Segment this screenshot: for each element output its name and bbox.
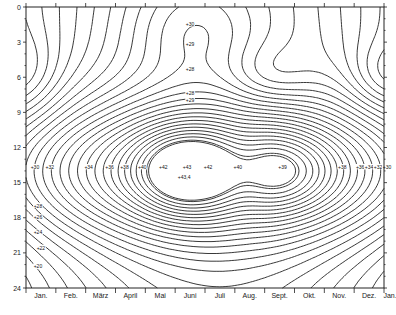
contour-label: +22: [37, 245, 46, 251]
contour-label: +29: [186, 41, 195, 47]
contour-label: +26: [34, 214, 43, 220]
contour-line: [131, 131, 319, 212]
contour-label: +32: [374, 164, 383, 170]
contour-label: +36: [356, 164, 365, 170]
x-tick-label: Juni: [184, 292, 197, 299]
contour-label: +43,4: [178, 174, 191, 180]
y-tick-label: 3: [17, 39, 21, 46]
contour-label: +30: [31, 164, 40, 170]
contour-label: +40: [138, 164, 147, 170]
contour-line: [103, 117, 344, 225]
contour-label: +28: [34, 203, 43, 209]
x-tick-label: Feb.: [64, 292, 78, 299]
x-tick-label: Jan.: [34, 292, 47, 299]
contour-label: +36: [105, 164, 114, 170]
contour-line: [136, 134, 313, 208]
x-tick-label: Okt.: [303, 292, 316, 299]
x-tick-label: Dez.: [362, 292, 376, 299]
contour-line: [26, 20, 37, 85]
x-tick-label: Aug.: [243, 292, 257, 300]
x-tick-label: Sept.: [271, 292, 287, 300]
y-tick-label: 6: [17, 74, 21, 81]
x-tick-label: April: [123, 292, 137, 300]
x-tick-label: Nov.: [332, 292, 346, 299]
contour-label: +40: [234, 164, 243, 170]
x-axis: Jan.Feb.MärzAprilMaiJuniJuliAug.Sept.Okt…: [26, 3, 396, 300]
contour-label: +29: [186, 97, 195, 103]
y-tick-label: 0: [17, 4, 21, 11]
y-tick-label: 15: [13, 179, 21, 186]
y-tick-label: 21: [13, 249, 21, 256]
y-tick-label: 9: [17, 109, 21, 116]
contour-line: [78, 104, 365, 237]
contour-label: +32: [46, 164, 55, 170]
contour-label: +39: [278, 164, 287, 170]
x-tick-label: Juli: [215, 292, 226, 299]
contour-label: +34: [84, 164, 93, 170]
contour-label: +42: [204, 164, 213, 170]
y-tick-label: 18: [13, 214, 21, 221]
contour-line: [51, 83, 384, 254]
contour-line: [69, 99, 373, 242]
x-tick-label: Jan.: [383, 292, 396, 299]
contour-label: +28: [186, 90, 195, 96]
y-tick-label: 12: [13, 144, 21, 151]
contour-label: +38: [120, 164, 129, 170]
contour-label: +20: [34, 263, 43, 269]
isopleth-chart: +30+29+28+28+29+30+32+34+36+38+40+42+43+…: [0, 0, 396, 315]
contour-label: +28: [186, 66, 195, 72]
x-tick-label: Mai: [155, 292, 167, 299]
y-tick-label: 24: [13, 285, 21, 292]
contour-label: +34: [365, 164, 374, 170]
x-tick-label: März: [93, 292, 109, 299]
contour-label: +30: [186, 21, 195, 27]
contour-line: [34, 7, 384, 271]
contour-label: +42: [159, 164, 168, 170]
contour-line: [149, 142, 296, 201]
contour-label: +24: [34, 229, 43, 235]
contour-label: +43: [183, 164, 192, 170]
contour-label: +38: [338, 164, 347, 170]
contour-lines: [26, 7, 384, 288]
y-axis: 03691215182124: [13, 4, 387, 292]
